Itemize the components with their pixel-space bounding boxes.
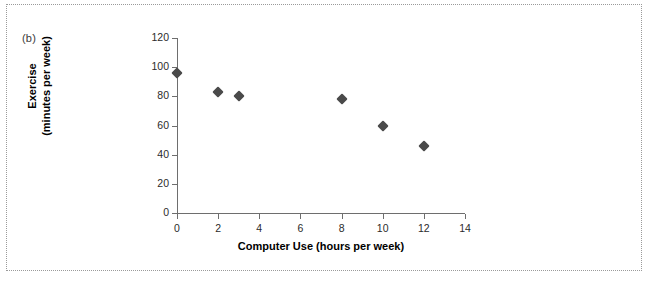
x-tick-label: 0 xyxy=(165,222,189,234)
x-tick-label: 4 xyxy=(247,222,271,234)
x-tick xyxy=(465,214,466,219)
y-tick xyxy=(172,38,177,39)
x-tick xyxy=(259,214,260,219)
x-tick-label: 2 xyxy=(206,222,230,234)
y-tick-label: 80 xyxy=(143,89,169,101)
y-tick-label: 0 xyxy=(143,206,169,218)
y-tick-label: 120 xyxy=(143,31,169,43)
y-tick-label: 60 xyxy=(143,119,169,131)
x-axis-line xyxy=(177,213,465,214)
x-tick xyxy=(342,214,343,219)
x-axis-title: Computer Use (hours per week) xyxy=(177,240,465,252)
data-point xyxy=(233,91,244,102)
y-axis-title-line1: Exercise xyxy=(26,63,40,108)
x-tick-label: 6 xyxy=(288,222,312,234)
x-tick-label: 12 xyxy=(412,222,436,234)
y-tick-label: 20 xyxy=(143,177,169,189)
data-point xyxy=(377,120,388,131)
figure-panel: (b) 020406080100120 02468101214 Computer… xyxy=(0,0,646,281)
x-tick-label: 14 xyxy=(453,222,477,234)
y-tick xyxy=(172,155,177,156)
x-tick xyxy=(218,214,219,219)
data-point xyxy=(418,140,429,151)
y-axis-line xyxy=(177,38,178,214)
x-tick xyxy=(300,214,301,219)
x-tick-label: 10 xyxy=(371,222,395,234)
data-point xyxy=(212,86,223,97)
y-tick xyxy=(172,126,177,127)
y-tick xyxy=(172,96,177,97)
x-tick xyxy=(177,214,178,219)
y-axis-title: Exercise (minutes per week) xyxy=(20,0,60,186)
y-axis-title-line2: (minutes per week) xyxy=(40,36,54,136)
scatter-plot: 020406080100120 02468101214 Computer Use… xyxy=(0,0,646,281)
x-tick-label: 8 xyxy=(330,222,354,234)
y-tick-label: 100 xyxy=(143,60,169,72)
x-tick xyxy=(383,214,384,219)
y-tick xyxy=(172,184,177,185)
y-tick-label: 40 xyxy=(143,148,169,160)
x-tick xyxy=(424,214,425,219)
data-point xyxy=(336,94,347,105)
data-point xyxy=(171,67,182,78)
